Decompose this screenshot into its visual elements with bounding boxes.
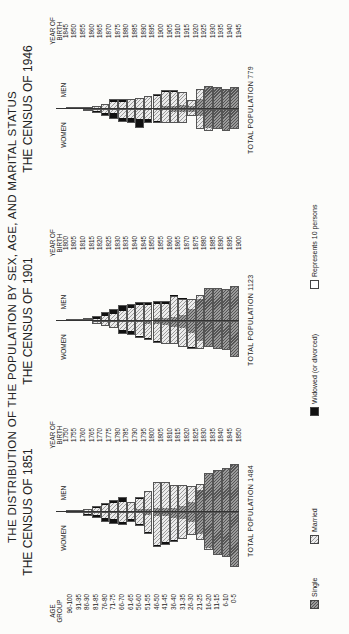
year-of-birth-label: 1760 xyxy=(79,428,88,450)
year-of-birth-label: 1845 xyxy=(62,24,71,46)
bar-outline xyxy=(161,90,170,109)
year-of-birth-label: 1895 xyxy=(226,236,235,258)
year-of-birth-label: 1845 xyxy=(226,428,235,450)
bar-outline xyxy=(222,512,231,557)
age-row xyxy=(222,420,231,630)
bar-outline xyxy=(196,89,205,109)
bar-outline xyxy=(170,90,179,109)
year-of-birth-label: 1795 xyxy=(140,428,149,450)
year-of-birth-label: 1810 xyxy=(166,428,175,450)
bar-outline xyxy=(153,109,162,124)
year-of-birth-label: 1855 xyxy=(157,236,166,258)
year-of-birth-label: 1860 xyxy=(88,24,97,46)
bar-outline xyxy=(135,498,144,513)
bar-outline xyxy=(101,109,110,116)
bar-outline xyxy=(144,302,153,321)
age-row xyxy=(196,420,205,630)
bar-outline xyxy=(187,486,196,512)
age-row xyxy=(118,420,127,630)
year-of-birth-label: 1855 xyxy=(79,24,88,46)
year-of-birth-label: 1865 xyxy=(96,24,105,46)
legend-label: Represents 10 persons xyxy=(311,205,318,277)
year-of-birth-label: 1895 xyxy=(148,24,157,46)
center-axis xyxy=(56,511,239,512)
year-of-birth-label: 1785 xyxy=(122,428,131,450)
bar-outline xyxy=(144,491,153,512)
year-of-birth-label: 1800 xyxy=(148,428,157,450)
total-population-label: TOTAL POPULATION 1123 xyxy=(247,275,254,367)
year-of-birth-column: 1845185018551860186518701875188018851890… xyxy=(62,24,244,46)
year-of-birth-label: 1805 xyxy=(157,428,166,450)
year-of-birth-label: 1910 xyxy=(174,24,183,46)
total-population-label: TOTAL POPULATION 779 xyxy=(247,66,254,154)
legend-married: Married xyxy=(310,508,319,544)
year-of-birth-label: 1885 xyxy=(209,236,218,258)
bar-outline xyxy=(83,109,92,111)
bar-outline xyxy=(196,109,205,129)
legend-single: Single xyxy=(310,578,319,609)
center-axis xyxy=(56,108,239,109)
bar-outline xyxy=(135,321,144,338)
bar-outline xyxy=(178,485,187,512)
bar-outline xyxy=(161,301,170,321)
year-of-birth-label: 1940 xyxy=(226,24,235,46)
bar-outline xyxy=(161,321,170,344)
year-of-birth-column: 1750175517601765177017751780178517901795… xyxy=(62,428,244,450)
bar-outline xyxy=(92,512,101,518)
bar-outline xyxy=(153,512,162,547)
year-of-birth-label: 1820 xyxy=(183,428,192,450)
age-row xyxy=(109,420,118,630)
age-group-header: AGE GROUP xyxy=(49,594,63,628)
bar-outline xyxy=(222,89,231,109)
bar-outline xyxy=(230,286,239,321)
bar-outline xyxy=(178,92,187,109)
bar-outline xyxy=(178,299,187,321)
year-of-birth-label: 1805 xyxy=(70,236,79,258)
year-of-birth-column: 1800180518101815182018251830183518401845… xyxy=(62,236,244,258)
bar-outline xyxy=(170,109,179,124)
pyramid-bars xyxy=(66,420,239,630)
year-of-birth-label: 1900 xyxy=(235,236,244,258)
bar-outline xyxy=(127,512,136,522)
bar-outline xyxy=(213,512,222,556)
year-of-birth-label: 1835 xyxy=(209,428,218,450)
bar-outline xyxy=(135,109,144,128)
bar-outline xyxy=(161,482,170,512)
center-axis xyxy=(56,320,239,321)
bar-outline xyxy=(213,470,222,512)
year-of-birth-label: 1900 xyxy=(157,24,166,46)
bar-outline xyxy=(144,321,153,340)
bar-outline xyxy=(213,109,222,129)
bar-outline xyxy=(213,321,222,349)
legend-label: Widowed (or divorced) xyxy=(311,334,318,404)
bar-outline xyxy=(118,512,127,525)
bar-outline xyxy=(118,109,127,122)
age-row xyxy=(92,420,101,630)
year-of-birth-label: 1875 xyxy=(114,24,123,46)
bar-outline xyxy=(153,482,162,512)
census-title: THE CENSUS OF 1851 xyxy=(22,407,35,617)
age-row xyxy=(230,420,239,630)
bar-outline xyxy=(230,321,239,357)
bar-outline xyxy=(101,512,110,522)
year-of-birth-label: 1930 xyxy=(209,24,218,46)
total-population-label: TOTAL POPULATION 1484 xyxy=(247,465,254,557)
census-title: THE CENSUS OF 1946 xyxy=(22,4,35,214)
bar-outline xyxy=(204,321,213,347)
bar-outline xyxy=(92,321,101,324)
bar-outline xyxy=(109,321,118,328)
year-of-birth-label: 1860 xyxy=(166,236,175,258)
bar-outline xyxy=(222,109,231,131)
bar-outline xyxy=(213,288,222,321)
bar-outline xyxy=(170,321,179,344)
age-row xyxy=(66,420,75,630)
bar-outline xyxy=(222,289,231,321)
age-row xyxy=(75,420,84,630)
year-of-birth-label: 1925 xyxy=(200,24,209,46)
bar-outline xyxy=(204,512,213,550)
year-of-birth-label: 1765 xyxy=(88,428,97,450)
year-of-birth-label: 1850 xyxy=(70,24,79,46)
married-swatch-icon xyxy=(310,535,319,544)
year-of-birth-label: 1850 xyxy=(148,236,157,258)
year-of-birth-label: 1945 xyxy=(235,24,244,46)
